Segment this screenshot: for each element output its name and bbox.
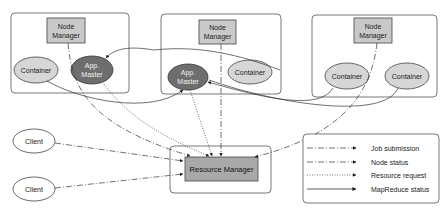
legend-resource-request: Resource request: [371, 172, 426, 180]
node-2-am-line1: App.: [181, 69, 195, 77]
am1-resource-request: [104, 84, 209, 156]
node-1-am-line1: App.: [85, 62, 99, 70]
node-2-app-master[interactable]: [168, 64, 208, 90]
node-1-nm-line2: Manager: [52, 32, 80, 40]
node-2-am-line2: Master: [177, 78, 199, 85]
node-3-container-a-label: Container: [332, 73, 363, 80]
node-2-nm-line1: Node: [209, 24, 226, 31]
node-1: Node Manager Container App. Master: [11, 13, 129, 93]
legend-job-submission: Job submission: [371, 145, 419, 152]
clients: Client Client: [13, 129, 55, 201]
node-2-container-label: Container: [235, 69, 266, 76]
node-3-nm-line1: Node: [365, 23, 382, 30]
node-1-am-line2: Master: [81, 71, 103, 78]
legend-mapreduce-status: MapReduce status: [371, 186, 430, 194]
client1-job-submission: [55, 143, 183, 161]
legend: Job submission Node status Resource requ…: [303, 134, 439, 203]
node-1-node-manager[interactable]: [47, 18, 85, 43]
client-2-label: Client: [25, 186, 43, 193]
node-3-nm-line2: Manager: [359, 32, 387, 40]
node-3-container-b-label: Container: [392, 73, 423, 80]
client-1-label: Client: [25, 138, 43, 145]
node-2-nm-line2: Manager: [204, 33, 232, 41]
resource-manager-group: Resource Manager: [170, 146, 271, 193]
legend-node-status: Node status: [371, 159, 409, 166]
node-1-container-label: Container: [21, 67, 52, 74]
node-1-app-master[interactable]: [71, 56, 113, 84]
node-3-node-manager[interactable]: [354, 18, 392, 43]
resource-manager-label: Resource Manager: [190, 165, 254, 174]
client2-job-submission: [55, 174, 183, 188]
node-1-nm-line1: Node: [58, 23, 75, 30]
node-3: Node Manager Container Container: [312, 15, 437, 97]
yarn-diagram: Node Manager Container App. Master Node …: [0, 0, 447, 212]
